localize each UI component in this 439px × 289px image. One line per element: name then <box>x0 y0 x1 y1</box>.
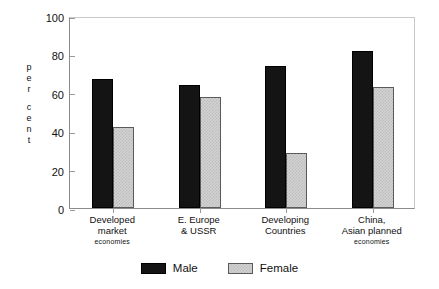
bar-female-2 <box>286 153 307 208</box>
category-label-line: economies <box>317 236 427 247</box>
y-axis-title-letter: n <box>18 124 40 135</box>
y-axis-tick <box>70 56 75 57</box>
legend-entry-male: Male <box>141 262 198 274</box>
category-label-line: China, <box>317 214 427 225</box>
category-label-line: Asian planned <box>317 225 427 236</box>
y-axis-title-letter: c <box>18 102 40 113</box>
bar-male-3 <box>352 51 373 208</box>
bar-female-3 <box>373 87 394 208</box>
chart-legend: MaleFemale <box>0 262 439 274</box>
y-axis-tick-label: 100 <box>46 13 64 24</box>
y-axis-tick-label: 40 <box>52 128 64 139</box>
legend-label-male: Male <box>173 262 198 274</box>
y-axis-tick-label: 60 <box>52 89 64 100</box>
y-axis-tick <box>70 94 75 95</box>
legend-entry-female: Female <box>228 262 298 274</box>
legend-swatch-male <box>141 263 166 274</box>
y-axis-tick <box>70 210 75 211</box>
bar-female-0 <box>113 127 134 208</box>
y-axis-tick-label: 20 <box>52 166 64 177</box>
x-axis-tick <box>113 208 114 213</box>
category-label-3: China,Asian plannedeconomies <box>317 214 427 247</box>
bar-male-2 <box>265 66 286 208</box>
x-axis-tick <box>373 208 374 213</box>
category-label-line: economies <box>57 236 167 247</box>
y-axis-title-letter: e <box>18 113 40 124</box>
legend-swatch-female <box>228 263 253 274</box>
y-axis-title-letter: t <box>18 135 40 146</box>
bar-chart-figure: p e r c e n t 020406080100 Developedmark… <box>0 0 439 289</box>
y-axis-tick <box>70 133 75 134</box>
y-axis-tick <box>70 18 75 19</box>
y-axis-title-letter: r <box>18 84 40 95</box>
x-axis-tick <box>200 208 201 213</box>
bar-female-1 <box>200 97 221 208</box>
y-axis-title-letter: e <box>18 73 40 84</box>
bar-male-1 <box>179 85 200 208</box>
y-axis-title: p e r c e n t <box>18 62 40 146</box>
x-axis-tick <box>286 208 287 213</box>
plot-area: 020406080100 <box>69 17 415 209</box>
y-axis-tick <box>70 171 75 172</box>
bar-male-0 <box>92 79 113 208</box>
legend-label-female: Female <box>260 262 298 274</box>
y-axis-tick-label: 80 <box>52 51 64 62</box>
y-axis-title-letter: p <box>18 62 40 73</box>
y-axis-title-spacer <box>18 95 40 102</box>
